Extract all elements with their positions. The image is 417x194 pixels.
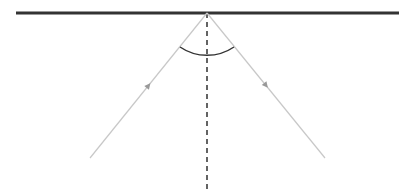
reflection-diagram xyxy=(0,0,417,194)
